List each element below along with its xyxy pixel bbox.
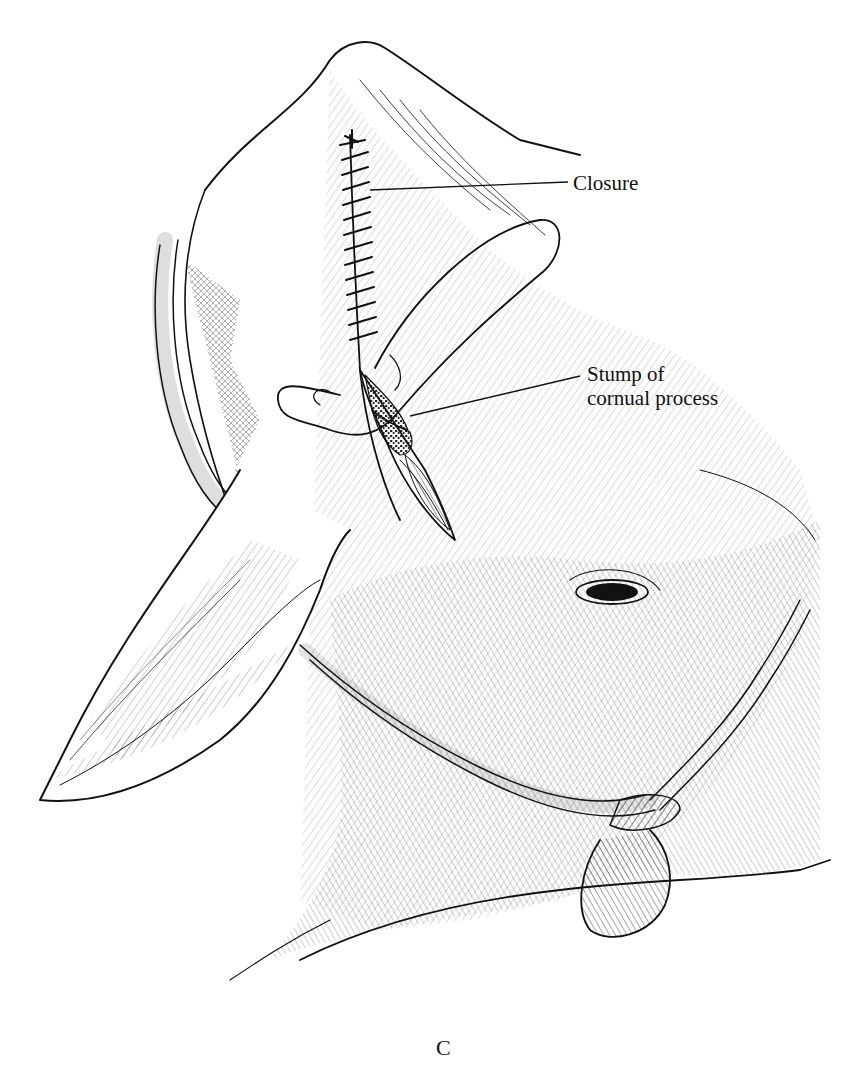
label-stump-line-1: Stump of: [587, 362, 718, 386]
panel-letter: C: [436, 1036, 451, 1060]
label-closure: Closure: [573, 171, 638, 195]
label-stump-line-2: cornual process: [587, 386, 718, 410]
leader-lines: [0, 0, 863, 1079]
closure-leader-line: [370, 182, 568, 190]
surgical-illustration: Closure Stump of cornual process C: [0, 0, 863, 1079]
label-stump-of-cornual-process: Stump of cornual process: [587, 362, 718, 410]
stump-leader-line: [410, 376, 580, 416]
